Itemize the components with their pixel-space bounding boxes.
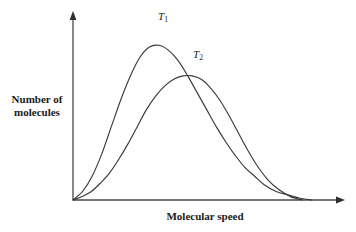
curve-t1: [73, 45, 312, 200]
curve-label-t2: T2: [193, 48, 203, 60]
y-axis-arrowhead: [70, 11, 77, 20]
y-axis-label: Number of molecules: [6, 93, 68, 119]
curve-label-t1-subscript: 1: [164, 15, 168, 24]
x-axis-arrowhead: [336, 197, 345, 204]
curve-label-t2-subscript: 2: [199, 53, 203, 62]
x-axis-label: Molecular speed: [138, 210, 272, 223]
maxwell-boltzmann-distribution-figure: Number of molecules Molecular speed T1 T…: [0, 0, 356, 232]
curve-label-t1: T1: [158, 10, 168, 22]
